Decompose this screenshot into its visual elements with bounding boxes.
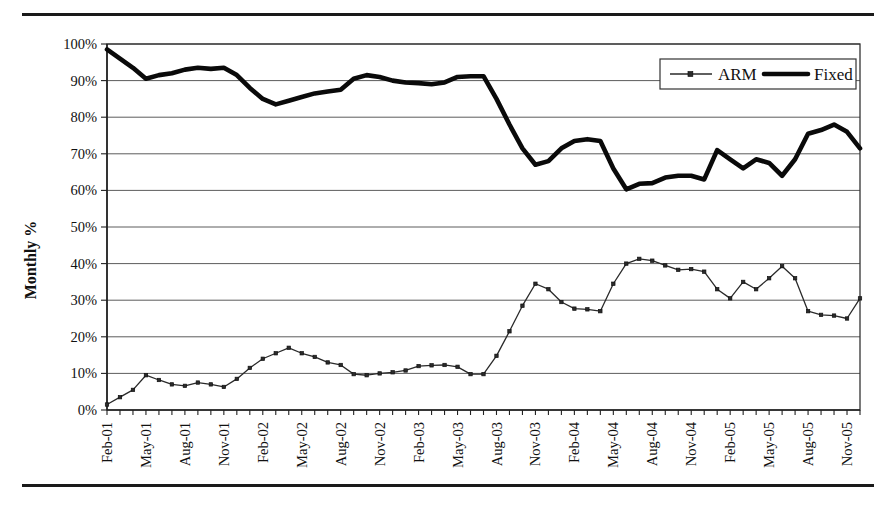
series-marker-arm: [183, 384, 186, 387]
y-tick-label: 100%: [63, 36, 97, 52]
series-marker-arm: [845, 317, 848, 320]
series-marker-arm: [300, 352, 303, 355]
series-marker-arm: [754, 288, 757, 291]
y-axis-ticks: [101, 44, 107, 410]
series-marker-arm: [118, 395, 121, 398]
series-marker-arm: [196, 381, 199, 384]
series-marker-arm: [248, 366, 251, 369]
gridlines: [107, 44, 860, 373]
series-marker-arm: [690, 267, 693, 270]
x-tick-label: May-01: [138, 422, 154, 468]
series-marker-arm: [430, 364, 433, 367]
y-tick-label: 90%: [70, 73, 97, 89]
series-marker-arm: [261, 357, 264, 360]
series-marker-arm: [417, 364, 420, 367]
series-marker-arm: [664, 264, 667, 267]
x-tick-label: Nov-01: [216, 422, 232, 466]
series-marker-arm: [131, 388, 134, 391]
x-axis-tick-labels: Feb-01May-01Aug-01Nov-01Feb-02May-02Aug-…: [99, 421, 855, 468]
series-marker-arm: [326, 361, 329, 364]
x-tick-label: May-02: [294, 422, 310, 468]
series-line-arm: [107, 259, 860, 405]
series-marker-arm: [599, 309, 602, 312]
line-chart-plot: 0%10%20%30%40%50%60%70%80%90%100% Feb-01…: [0, 0, 891, 507]
series-marker-arm: [728, 297, 731, 300]
series-marker-arm: [157, 378, 160, 381]
x-tick-label: Aug-04: [644, 421, 660, 466]
series-marker-arm: [313, 355, 316, 358]
series-marker-arm: [560, 300, 563, 303]
series-marker-arm: [858, 297, 861, 300]
y-tick-label: 80%: [70, 109, 97, 125]
series-marker-arm: [534, 282, 537, 285]
series-marker-arm: [819, 313, 822, 316]
chart-legend[interactable]: ARMFixed: [660, 59, 856, 89]
x-tick-label: Nov-05: [839, 422, 855, 466]
series-marker-arm: [703, 270, 706, 273]
y-tick-label: 40%: [70, 256, 97, 272]
series-marker-arm: [352, 372, 355, 375]
x-tick-label: Nov-04: [683, 421, 699, 466]
series-marker-arm: [547, 288, 550, 291]
series-marker-arm: [638, 257, 641, 260]
series-marker-arm: [456, 365, 459, 368]
series-marker-arm: [443, 363, 446, 366]
y-tick-label: 50%: [70, 219, 97, 235]
series-marker-arm: [170, 383, 173, 386]
x-tick-label: May-04: [605, 421, 621, 468]
x-tick-label: Feb-01: [99, 422, 115, 463]
series-marker-arm: [573, 307, 576, 310]
x-tick-label: Aug-02: [333, 422, 349, 466]
legend-label-fixed[interactable]: Fixed: [814, 65, 853, 84]
y-tick-label: 30%: [70, 292, 97, 308]
x-tick-label: May-03: [450, 422, 466, 468]
series-marker-arm: [495, 354, 498, 357]
legend-marker-arm: [688, 72, 693, 77]
series-marker-arm: [222, 385, 225, 388]
series-marker-arm: [339, 363, 342, 366]
y-axis-title-text: Monthly %: [22, 221, 40, 300]
y-axis-title: Monthly %: [22, 221, 40, 300]
series-marker-arm: [625, 262, 628, 265]
series-marker-arm: [404, 369, 407, 372]
chart-figure: 0%10%20%30%40%50%60%70%80%90%100% Feb-01…: [0, 0, 891, 507]
series-marker-arm: [651, 259, 654, 262]
series-marker-arm: [780, 264, 783, 267]
y-tick-label: 20%: [70, 329, 97, 345]
y-tick-label: 60%: [70, 182, 97, 198]
series-marker-arm: [378, 372, 381, 375]
series-marker-arm: [767, 277, 770, 280]
y-tick-label: 0%: [78, 402, 97, 418]
series-marker-arm: [508, 330, 511, 333]
y-tick-label: 70%: [70, 146, 97, 162]
x-tick-label: Aug-03: [489, 422, 505, 466]
series-marker-arm: [586, 308, 589, 311]
series-marker-arm: [741, 280, 744, 283]
x-tick-label: Feb-03: [411, 422, 427, 463]
series-marker-arm: [521, 304, 524, 307]
legend-label-arm[interactable]: ARM: [718, 65, 757, 84]
series-marker-arm: [274, 352, 277, 355]
series-marker-arm: [677, 268, 680, 271]
series-marker-arm: [806, 309, 809, 312]
x-tick-label: May-05: [761, 422, 777, 468]
series-marker-arm: [391, 371, 394, 374]
x-tick-label: Nov-02: [372, 422, 388, 466]
series-marker-arm: [793, 277, 796, 280]
data-series: [105, 49, 861, 406]
x-tick-label: Aug-05: [800, 422, 816, 466]
series-marker-arm: [209, 383, 212, 386]
series-marker-arm: [469, 372, 472, 375]
series-marker-arm: [105, 403, 108, 406]
series-marker-arm: [482, 372, 485, 375]
x-tick-label: Feb-04: [566, 421, 582, 463]
series-marker-arm: [235, 377, 238, 380]
x-tick-label: Feb-05: [722, 422, 738, 463]
x-tick-label: Feb-02: [255, 422, 271, 463]
series-marker-arm: [832, 314, 835, 317]
series-marker-arm: [144, 374, 147, 377]
x-tick-label: Aug-01: [177, 422, 193, 466]
y-axis-tick-labels: 0%10%20%30%40%50%60%70%80%90%100%: [63, 36, 97, 418]
series-marker-arm: [715, 288, 718, 291]
series-marker-arm: [287, 346, 290, 349]
